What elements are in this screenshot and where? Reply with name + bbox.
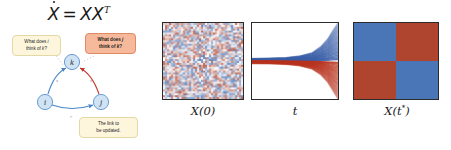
edge-label-i-k: x xyxy=(56,78,59,83)
callout-j-tail: ? xyxy=(119,44,122,49)
callout-link-update: The link to be updated. xyxy=(79,117,138,138)
callout-link-line1: The link to xyxy=(98,121,119,126)
block-structure-heatmap xyxy=(354,23,438,99)
block-cell-bottom-right xyxy=(396,61,438,99)
dynamics-equation: X=XXT xyxy=(0,4,158,24)
time-axis-label: t xyxy=(249,104,341,118)
equation-equals: = xyxy=(60,4,81,24)
trajectory-curves xyxy=(252,23,338,99)
graph-node-k-label: k xyxy=(70,59,74,67)
schematic-block: X=XXT k xyxy=(0,0,158,150)
figure-panel-group: X=XXT k xyxy=(0,0,451,150)
final-matrix-label: X(t*) xyxy=(349,104,445,118)
callout-i-tail: ? xyxy=(44,46,47,51)
callout-link-line2: be updated. xyxy=(96,128,120,133)
leader-line-j-callout xyxy=(82,56,94,62)
callout-j-line2: think of xyxy=(99,44,117,49)
callout-j-line1: What does xyxy=(98,37,123,42)
leader-line-i-callout xyxy=(56,56,64,66)
block-cell-top-left xyxy=(354,23,396,61)
equation-rhs: XX xyxy=(80,4,104,24)
panel-trajectories: t xyxy=(249,0,341,150)
random-matrix-heatmap xyxy=(163,23,243,99)
callout-j-question: What does j think of k? xyxy=(85,33,136,54)
equation-transpose: T xyxy=(104,5,110,15)
block-cell-bottom-left xyxy=(354,61,396,99)
callout-i-question: What does i think of k? xyxy=(12,35,61,56)
trajectories-plot-area xyxy=(251,22,339,100)
callout-i-emph1: i xyxy=(48,39,49,44)
initial-matrix-label: X(0) xyxy=(160,104,246,118)
graph-node-i-label: i xyxy=(44,99,46,107)
graph-node-i: i xyxy=(37,94,52,109)
callout-i-line2: think of xyxy=(26,46,42,51)
initial-matrix-plot-area xyxy=(162,22,244,100)
panel-final-matrix: X(t*) xyxy=(349,0,445,150)
graph-node-k: k xyxy=(64,54,79,69)
callout-i-line1: What does xyxy=(24,39,47,44)
equation-lhs: X xyxy=(48,4,60,24)
final-matrix-label-base: X(t xyxy=(384,104,401,118)
final-matrix-plot-area xyxy=(353,22,439,100)
final-matrix-label-tail: ) xyxy=(405,104,410,118)
callout-j-emph1: j xyxy=(122,37,123,42)
edge-label-i-j: r xyxy=(70,114,73,119)
edge-i-to-j xyxy=(52,105,93,109)
panel-initial-matrix: X(0) xyxy=(160,0,246,150)
block-cell-top-right xyxy=(396,23,438,61)
graph-node-j: j xyxy=(93,94,108,109)
